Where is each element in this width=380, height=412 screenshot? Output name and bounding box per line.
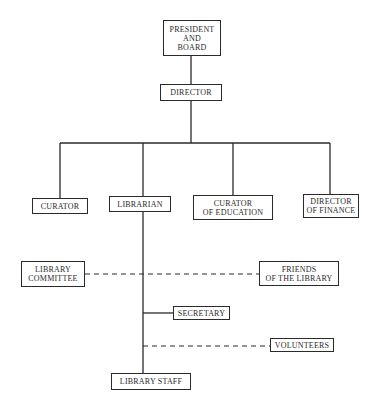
node-label: OF EDUCATION [203,208,263,217]
node-library-committee: LIBRARY COMMITTEE [21,261,85,287]
node-label: PRESIDENT [170,25,215,34]
node-label: SECRETARY [178,309,225,318]
node-director-of-finance: DIRECTOR OF FINANCE [303,194,359,218]
node-label: VOLUNTEERS [275,341,329,350]
org-chart: PRESIDENT AND BOARD DIRECTOR CURATOR LIB… [0,0,380,412]
node-label: OF THE LIBRARY [265,274,332,283]
node-label: CURATOR [214,199,253,208]
node-label: OF FINANCE [307,206,356,215]
node-label: FRIENDS [282,265,317,274]
node-curator: CURATOR [32,198,88,214]
node-label: CURATOR [41,202,80,211]
node-label: LIBRARY STAFF [120,377,182,386]
node-friends-of-the-library: FRIENDS OF THE LIBRARY [259,261,339,286]
node-label: BOARD [177,43,206,52]
node-library-staff: LIBRARY STAFF [111,373,191,390]
node-director: DIRECTOR [160,84,222,101]
node-librarian: LIBRARIAN [109,196,171,212]
node-label: DIRECTOR [310,197,351,206]
node-curator-of-education: CURATOR OF EDUCATION [193,195,273,220]
node-label: DIRECTOR [170,88,211,97]
node-label: AND [183,34,201,43]
node-volunteers: VOLUNTEERS [270,338,334,352]
node-president-and-board: PRESIDENT AND BOARD [163,20,221,56]
node-label: COMMITTEE [28,274,77,283]
node-label: LIBRARIAN [117,200,162,209]
node-label: LIBRARY [35,265,71,274]
node-secretary: SECRETARY [173,306,230,320]
